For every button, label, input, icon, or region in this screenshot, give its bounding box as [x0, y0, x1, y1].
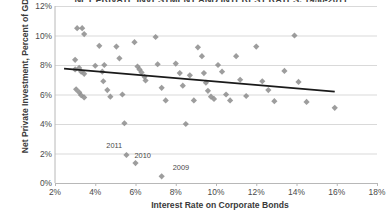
data-point	[155, 61, 161, 67]
plot-area	[0, 0, 390, 219]
data-point	[215, 62, 221, 68]
data-point	[131, 39, 137, 45]
data-point-annotation: 2010	[134, 151, 150, 160]
data-point	[195, 44, 201, 50]
data-point	[119, 91, 125, 97]
data-point	[180, 83, 186, 89]
data-point	[123, 152, 129, 158]
data-point	[132, 160, 138, 166]
data-point	[113, 43, 119, 49]
data-point	[233, 53, 239, 59]
data-point	[271, 98, 277, 104]
data-point	[295, 79, 301, 85]
data-point	[281, 68, 287, 74]
data-point	[303, 99, 309, 105]
data-point	[243, 93, 249, 99]
data-point	[291, 32, 297, 38]
data-point	[332, 105, 338, 111]
data-point	[259, 78, 265, 84]
data-point	[104, 87, 110, 93]
data-point	[96, 43, 102, 49]
data-point-annotation: 2009	[173, 163, 189, 172]
data-point-annotation: 2011	[106, 141, 122, 150]
data-point	[223, 91, 229, 97]
data-point	[92, 63, 98, 69]
data-point	[183, 121, 189, 127]
data-point	[72, 57, 78, 63]
data-point	[205, 88, 211, 94]
data-point	[237, 77, 243, 83]
data-point	[177, 70, 183, 76]
data-point	[219, 69, 225, 75]
data-point	[191, 97, 197, 103]
data-point	[101, 62, 107, 68]
data-point	[100, 78, 106, 84]
scatter-chart: NET PRIVATE INVESTMENT AND INTEREST RATE…	[0, 0, 390, 219]
data-point	[227, 97, 233, 103]
data-point	[253, 43, 259, 49]
data-point	[121, 120, 127, 126]
data-point	[159, 85, 165, 91]
data-point	[265, 87, 271, 93]
data-point	[79, 25, 85, 31]
data-point	[199, 53, 205, 59]
data-point	[153, 34, 159, 40]
data-point	[116, 55, 122, 61]
data-point	[201, 70, 207, 76]
data-point	[163, 97, 169, 103]
data-point	[159, 173, 165, 179]
data-point	[187, 72, 193, 78]
